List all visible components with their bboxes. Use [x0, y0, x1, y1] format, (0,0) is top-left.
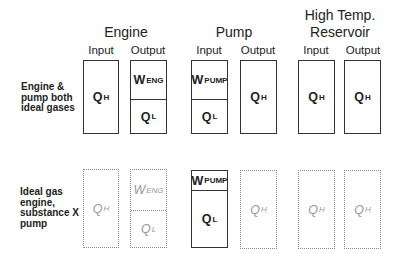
- q-l-label: QL: [192, 99, 227, 133]
- reservoir-title-line1: High Temp.: [290, 7, 390, 23]
- q-h-label: QH: [345, 61, 380, 133]
- w-eng-label: WENG: [131, 61, 166, 99]
- w-pump-label: WPUMP: [192, 171, 227, 190]
- pump-output-label: Output: [236, 44, 280, 56]
- q-h-label: QH: [299, 171, 334, 248]
- q-h-label: QH: [241, 171, 276, 248]
- reservoir-title-line2: Reservoir: [290, 24, 390, 40]
- row2-reservoir-output-box: QH: [344, 170, 381, 249]
- row1-label: Engine & pump both ideal gases: [21, 82, 75, 114]
- row2-reservoir-input-box: QH: [298, 170, 335, 249]
- q-l-label: QL: [192, 190, 227, 247]
- q-h-label: QH: [299, 61, 334, 133]
- engine-input-label: Input: [80, 44, 122, 56]
- q-h-label: QH: [345, 171, 380, 248]
- q-h-label: QH: [84, 170, 118, 247]
- reservoir-output-label: Output: [341, 44, 385, 56]
- q-l-label: QL: [131, 99, 166, 133]
- row1-engine-output-box: WENG QL: [130, 60, 167, 134]
- row2-engine-output-box: WENG QL: [130, 169, 167, 248]
- row1-reservoir-input-box: QH: [298, 60, 335, 134]
- w-eng-label: WENG: [131, 170, 166, 210]
- q-h-label: QH: [241, 61, 276, 133]
- q-h-label: QH: [84, 61, 118, 133]
- row2-engine-input-box: QH: [83, 169, 119, 248]
- engine-output-label: Output: [126, 44, 170, 56]
- pump-input-label: Input: [188, 44, 230, 56]
- q-l-label: QL: [131, 210, 166, 247]
- row2-pump-input-box: WPUMP QL: [191, 170, 228, 248]
- row1-reservoir-output-box: QH: [344, 60, 381, 134]
- row1-engine-input-box: QH: [83, 60, 119, 134]
- row1-pump-input-box: WPUMP QL: [191, 60, 228, 134]
- reservoir-input-label: Input: [295, 44, 337, 56]
- row1-pump-output-box: QH: [240, 60, 277, 134]
- pump-title: Pump: [204, 24, 264, 40]
- row2-pump-output-box: QH: [240, 170, 277, 249]
- row2-label: Ideal gas engine, substance X pump: [20, 187, 79, 229]
- w-pump-label: WPUMP: [192, 61, 227, 99]
- engine-title: Engine: [96, 24, 156, 40]
